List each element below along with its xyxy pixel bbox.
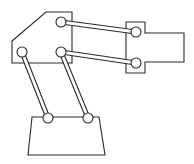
robot-arm-diagram [0, 0, 194, 164]
joint-effector-top-icon [131, 27, 141, 37]
joint-base-left-icon [43, 113, 53, 123]
joint-body-left-icon [17, 47, 27, 57]
joint-effector-bottom-icon [131, 58, 141, 68]
joint-base-right-icon [83, 113, 93, 123]
lower-parallel-link-right-inner [61, 52, 88, 118]
joint-body-top-icon [56, 17, 66, 27]
joint-body-right-icon [56, 47, 66, 57]
base [28, 117, 105, 155]
